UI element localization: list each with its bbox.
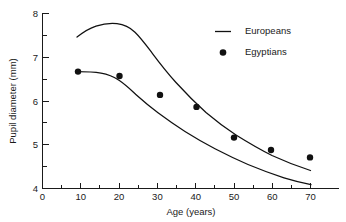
x-tick-label: 50 — [229, 191, 240, 202]
data-point — [116, 73, 122, 79]
dot-marker-icon — [220, 49, 227, 56]
y-tick-label: 5 — [33, 139, 38, 150]
y-tick-label: 6 — [33, 96, 38, 107]
data-point — [75, 68, 81, 74]
x-tick-label: 20 — [114, 191, 125, 202]
data-point — [231, 134, 237, 140]
pupil-diameter-scatter-chart: 8 7 6 5 4 0 10 20 — [0, 0, 346, 222]
y-tick-label: 7 — [33, 52, 38, 63]
x-tick-label: 30 — [152, 191, 163, 202]
data-point — [268, 147, 274, 153]
legend-label: Egyptians — [245, 46, 287, 57]
y-tick-label: 4 — [33, 183, 38, 194]
data-point — [307, 154, 313, 160]
data-point — [157, 92, 163, 98]
x-tick-label: 70 — [305, 191, 316, 202]
y-tick-label: 8 — [33, 8, 38, 19]
x-tick-label: 0 — [40, 191, 45, 202]
data-point — [193, 104, 199, 110]
legend-label: Europeans — [245, 25, 291, 36]
x-tick-label: 40 — [190, 191, 201, 202]
chart-figure: 8 7 6 5 4 0 10 20 — [0, 0, 346, 222]
x-tick-label: 10 — [76, 191, 87, 202]
x-axis-title: Age (years) — [166, 206, 215, 217]
x-tick-label: 60 — [267, 191, 278, 202]
y-axis-title: Pupil diameter (mm) — [7, 58, 18, 144]
